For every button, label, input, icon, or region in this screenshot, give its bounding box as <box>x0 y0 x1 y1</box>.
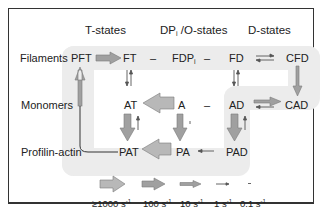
legend-label-100: 100 s-1 <box>143 195 172 210</box>
arrow-ad-pad <box>227 114 242 141</box>
legend-label-1000: ≥1000 s-1 <box>92 195 131 210</box>
legend-label-1: 1 s-1 <box>214 195 232 210</box>
legend-arrow-100 <box>142 178 165 190</box>
legend-label-10-text: 10 s <box>180 198 198 209</box>
arrow-cfd-cad <box>293 66 302 96</box>
legend-label-10: 10 s-1 <box>180 195 203 210</box>
arrows-layer <box>0 0 325 214</box>
legend-label-0-1-text: 0.1 s <box>240 198 261 209</box>
arrow-a-at <box>143 93 174 113</box>
legend-label-10-exp: -1 <box>198 198 203 204</box>
legend-label-1-exp: -1 <box>227 198 232 204</box>
legend-label-0-1-exp: -1 <box>261 198 266 204</box>
arrow-pa-pat <box>142 139 171 159</box>
legend-label-1-text: 1 s <box>214 198 227 209</box>
legend-label-1000-text: ≥1000 s <box>92 198 126 209</box>
arrow-pft-ft <box>96 52 121 64</box>
legend-label-100-text: 100 s <box>143 198 166 209</box>
legend-arrow-1000 <box>100 176 125 192</box>
arrow-pat-pft-line <box>80 106 118 152</box>
arrow-pat-pft <box>75 67 85 80</box>
arrow-at-pat <box>120 114 135 141</box>
legend-label-0-1: 0.1 s-1 <box>240 195 266 210</box>
legend-label-100-exp: -1 <box>166 198 171 204</box>
legend-label-1000-exp: -1 <box>126 198 131 204</box>
arrow-a-pa <box>173 114 187 141</box>
legend-arrow-10 <box>180 181 201 188</box>
arrow-ad-cad <box>254 97 281 106</box>
